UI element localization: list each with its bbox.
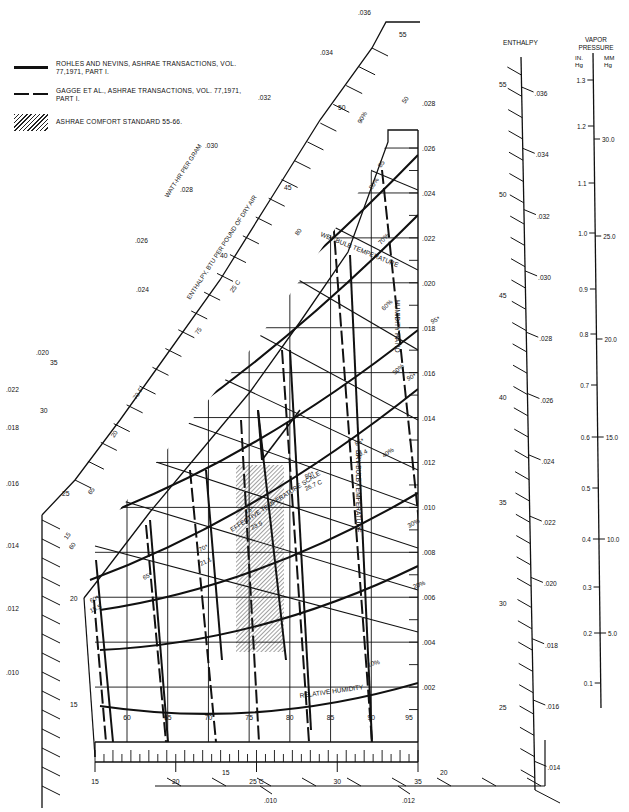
rh-curve-label: 90% (356, 110, 369, 125)
effective-temp-point-label: 70* (197, 542, 209, 553)
celsius-scale: 152025 C3035 (91, 742, 422, 785)
humidity-ratio-tick-label: .008 (422, 549, 435, 556)
watt-hr-tick-label: .034 (320, 49, 333, 56)
watt-hr-tick-label: .036 (358, 9, 371, 16)
fahrenheit-tick-label: 85 (327, 714, 335, 721)
wet-bulb-tick-label: 20 (109, 428, 119, 438)
humidity-ratio-tick-label: .014 (422, 415, 435, 422)
watt-hr-tick-label: .012 (6, 605, 19, 612)
btu-tick-label: 45 (284, 184, 292, 191)
wet-bulb-tick-label: 65 (86, 485, 96, 495)
enthalpy-axis-label: ENTHALPY, BTU PER POUND OF DRY AIR (185, 193, 258, 300)
wet-bulb-tick-label: 25 C (228, 278, 242, 293)
mm-hg-tick-label: 15.0 (606, 434, 619, 441)
wet-bulb-tick-label: 50 (400, 94, 410, 104)
in-hg-label: Hg (575, 61, 583, 68)
humidity-ratio-tick-label: .010 (422, 504, 435, 511)
vapor-pressure-scale: VAPORPRESSUREIN.HgMMHg0.10.20.30.40.50.6… (575, 36, 620, 708)
chart-graphics: 152025 C30356065707580859095.002.004.006… (6, 9, 620, 808)
btu-tick-label: 20 (70, 595, 78, 602)
celsius-tick-label: 25 C (249, 778, 263, 785)
watt-hr-tick-label: .032 (258, 94, 271, 101)
effective-temp-point-label: 21.1 (198, 555, 212, 567)
btu-tick-label: 15 (222, 769, 230, 776)
btu-tick-label: 25 (499, 704, 507, 711)
in-hg-tick-label: 1.2 (577, 123, 586, 130)
wet-bulb-tick-label: 80 (293, 226, 303, 236)
watt-hr-tick-label: .024 (542, 458, 555, 465)
humidity-ratio-tick-label: .006 (422, 594, 435, 601)
humidity-ratio-tick-label: .020 (422, 280, 435, 287)
btu-tick-label: 40 (499, 394, 507, 401)
btu-tick-label: 30 (499, 600, 507, 607)
in-hg-tick-label: 0.9 (579, 286, 588, 293)
celsius-tick-label: 30 (333, 778, 341, 785)
in-hg-tick-label: 0.8 (580, 331, 589, 338)
mm-hg-label: Hg (604, 61, 612, 68)
watt-hr-tick-label: .030 (538, 274, 551, 281)
watt-hr-tick-label: .016 (546, 703, 559, 710)
watt-hr-tick-label: .010 (6, 669, 19, 676)
humidity-ratio-tick-label: .024 (422, 190, 435, 197)
wet-bulb-tick-label: 75 (193, 325, 203, 335)
in-hg-label: IN. (575, 54, 583, 61)
wet-bulb-tick-label: 60 (67, 540, 77, 550)
fahrenheit-tick-label: 70 (205, 714, 213, 721)
btu-tick-label: 25 (62, 490, 70, 497)
btu-tick-label: 30 (40, 407, 48, 414)
humidity-ratio-tick-label: .028 (422, 100, 435, 107)
comfort-zone (236, 465, 284, 652)
in-hg-tick-label: 0.6 (581, 434, 590, 441)
celsius-tick-label: 15 (91, 778, 99, 785)
watt-hr-tick-label: .018 (6, 424, 19, 431)
fahrenheit-tick-label: 95 (405, 714, 413, 721)
watt-hr-tick-label: .016 (6, 480, 19, 487)
in-hg-tick-label: 1.3 (576, 77, 585, 84)
enthalpy-right-scale: ENTHALPY.036.034.032.030.028.026.024.022… (499, 39, 561, 803)
btu-tick-label: 55 (399, 31, 407, 38)
effective-temp-point-label: 85* (353, 436, 365, 447)
celsius-tick-label: 35 (414, 778, 422, 785)
watt-hr-tick-label: .022 (543, 519, 556, 526)
btu-tick-label: 50 (499, 191, 507, 198)
wet-bulb-tick-label: 85 (376, 158, 386, 168)
btu-tick-label: 35 (50, 359, 58, 366)
in-hg-tick-label: 1.0 (578, 230, 587, 237)
mm-hg-tick-label: 30.0 (602, 136, 615, 143)
mm-hg-tick-label: 20.0 (604, 336, 617, 343)
btu-tick-label: 35 (499, 499, 507, 506)
humidity-ratio-tick-label: .022 (422, 235, 435, 242)
psychrometric-chart: 152025 C30356065707580859095.002.004.006… (0, 0, 629, 812)
btu-tick-label: 15 (70, 701, 78, 708)
effective-temperature-lines (94, 170, 460, 742)
watt-hr-tick-label: .030 (205, 142, 218, 149)
bottom-enthalpy-scale: 1520.010.012 (155, 740, 545, 804)
rh-curve-label: 40% (381, 446, 396, 459)
watt-hr-tick-label: .032 (537, 213, 550, 220)
watt-hr-tick-label: .034 (536, 151, 549, 158)
humidity-ratio-axis-label: HUMIDITY RATIO (394, 300, 401, 352)
fahrenheit-tick-label: 60 (123, 714, 131, 721)
humidity-ratio-tick-label: .012 (422, 459, 435, 466)
watt-hr-tick-label: .028 (180, 186, 193, 193)
watt-hr-tick-label: .020 (36, 349, 49, 356)
effective-temp-point-label: 95* (429, 314, 441, 325)
vapor-pressure-label: PRESSURE (578, 44, 613, 51)
in-hg-tick-label: 0.2 (583, 630, 592, 637)
fahrenheit-tick-label: 80 (286, 714, 294, 721)
dry-bulb-axis-label: DRY-BULB TEMPERATURE (355, 450, 362, 533)
in-hg-tick-label: 0.3 (583, 584, 592, 591)
humidity-ratio-scale: .002.004.006.008.010.012.014.016.018.020… (409, 100, 435, 709)
watt-hr-tick-label: .020 (544, 580, 557, 587)
btu-tick-label: 55 (499, 81, 507, 88)
btu-tick-label: 20 (440, 769, 448, 776)
in-hg-tick-label: 1.1 (578, 180, 587, 187)
watt-hr-tick-label: .026 (135, 237, 148, 244)
fahrenheit-tick-label: 75 (245, 714, 253, 721)
enthalpy-diagonal-scale: .020.022.024.026.028.030.032.034.0363035… (6, 9, 407, 488)
humidity-ratio-tick-label: .016 (422, 370, 435, 377)
watt-hr-tick-label: .026 (540, 397, 553, 404)
humidity-ratio-tick-label: .026 (422, 145, 435, 152)
in-hg-tick-label: 0.5 (581, 485, 590, 492)
watt-hr-tick-label: .036 (535, 90, 548, 97)
